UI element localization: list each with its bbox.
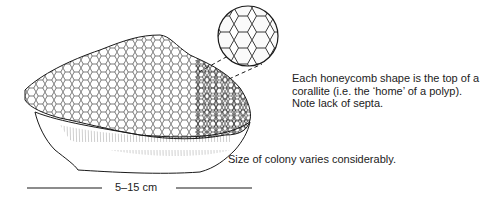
corallite-annotation: Each honeycomb shape is the top of a cor… [292,72,482,110]
magnified-inset [210,0,290,80]
scale-bar-label: 5–15 cm [115,181,157,193]
colony-size-annotation: Size of colony varies considerably. [228,153,396,166]
